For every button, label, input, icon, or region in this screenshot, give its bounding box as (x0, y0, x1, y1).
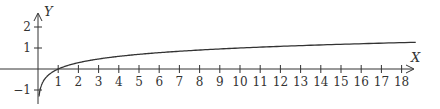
x-tick-label: 14 (313, 75, 329, 89)
log-chart: 123456789101112131415161718 −112 X Y (0, 0, 440, 109)
y-tick-label: 2 (23, 20, 31, 34)
x-tick-label: 4 (115, 75, 123, 89)
y-tick-label: −1 (13, 83, 31, 97)
x-tick-label: 12 (273, 75, 288, 89)
x-axis-label: X (410, 50, 421, 65)
x-tick-label: 11 (253, 75, 268, 89)
x-tick-label: 3 (95, 75, 103, 89)
x-tick-label: 6 (155, 75, 163, 89)
y-tick-label: 1 (23, 41, 31, 55)
x-tick-label: 13 (293, 75, 308, 89)
x-tick-label: 16 (354, 75, 369, 89)
x-tick-label: 9 (216, 75, 224, 89)
axes (0, 13, 414, 104)
x-tick-label: 17 (374, 75, 389, 89)
x-tick-label: 2 (75, 75, 83, 89)
y-axis-label: Y (44, 4, 54, 19)
x-tick-label: 5 (135, 75, 143, 89)
x-tick-label: 18 (394, 75, 409, 89)
x-tick-label: 1 (54, 75, 62, 89)
x-tick-label: 10 (232, 75, 247, 89)
x-tick-label: 15 (333, 75, 348, 89)
x-tick-label: 7 (176, 75, 184, 89)
x-tick-label: 8 (196, 75, 204, 89)
